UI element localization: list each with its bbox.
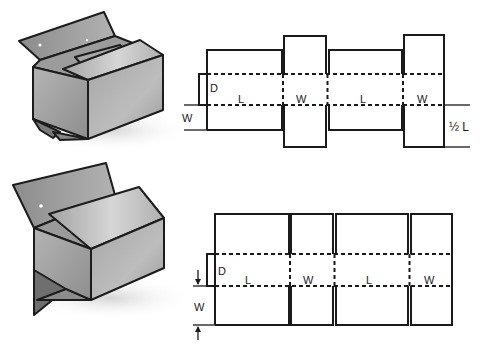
label-length: L [360, 93, 366, 105]
panel-outline-l2 [329, 50, 402, 130]
label-length: L [245, 274, 251, 286]
label-depth: D [218, 265, 226, 277]
label-depth: D [210, 82, 218, 94]
arrow-down-head [195, 279, 201, 285]
label-length: L [366, 274, 372, 286]
arrow-up-head [195, 326, 201, 332]
panel-outline-w2 [411, 214, 452, 325]
label-flap-width: W [194, 301, 205, 313]
dieline-bottom: D L W L W W [193, 214, 452, 340]
highlight [39, 204, 43, 208]
label-length: L [238, 93, 244, 105]
panel-outline-w1 [284, 36, 326, 147]
panel-outline-l1 [215, 214, 289, 325]
highlight [86, 39, 88, 41]
label-width: W [296, 93, 307, 105]
panel-outline-w2 [404, 35, 444, 147]
label-width: W [417, 93, 428, 105]
panel-outline-w1 [291, 214, 333, 325]
label-width: W [303, 274, 314, 286]
panel-outline-l2 [336, 214, 408, 325]
label-flap-width: W [182, 112, 193, 124]
label-flap-half-length: ½ L [449, 120, 469, 134]
box-diagrams-canvas: D L W L W W ½ L D L W L W [0, 0, 480, 353]
glue-tab [207, 254, 215, 286]
box-illustration-top [19, 12, 190, 152]
box-illustration-bottom [13, 163, 195, 320]
highlight [38, 43, 41, 46]
dieline-top: D L W L W W ½ L [182, 35, 470, 147]
label-width: W [424, 274, 435, 286]
glue-tab [199, 74, 207, 105]
panel-outline-l1 [207, 50, 282, 130]
